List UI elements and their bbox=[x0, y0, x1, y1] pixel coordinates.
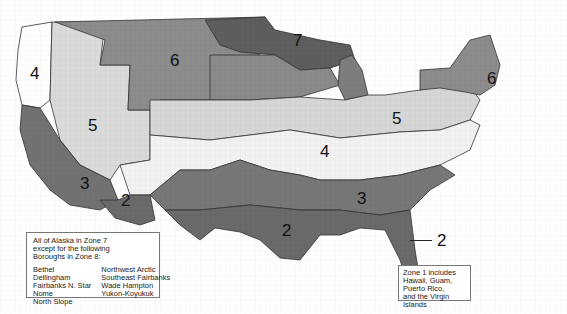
alaska-note-line3: Boroughs in Zone 8: bbox=[33, 253, 153, 261]
zone-label-3-california: 3 bbox=[80, 175, 89, 192]
zone-label-2-florida: 2 bbox=[437, 232, 446, 249]
zone-label-5-west: 5 bbox=[88, 117, 97, 134]
zone1-note-box: Zone 1 includes Hawaii, Guam, Puerto Ric… bbox=[398, 265, 471, 301]
zone-label-2-texas: 2 bbox=[282, 222, 291, 239]
zone-label-7-north: 7 bbox=[293, 32, 302, 49]
zone-label-5-midwest: 5 bbox=[392, 110, 401, 127]
zone-label-6-mountain: 6 bbox=[170, 52, 179, 69]
zone-label-4-central: 4 bbox=[320, 143, 329, 160]
boroughs-right-column: Northwest Arctic Southeast Fairbanks Wad… bbox=[101, 266, 170, 306]
zone-label-2-arizona: 2 bbox=[121, 192, 130, 209]
boroughs-left-column: Bethel Dellingham Fairbanks N. Star Nome… bbox=[33, 266, 91, 306]
zone1-note-line4: and the Virgin Islands bbox=[403, 293, 466, 309]
zone-label-3-southeast: 3 bbox=[357, 190, 366, 207]
borough-item: Yukon-Koyukuk bbox=[101, 290, 170, 298]
zone-label-6-northeast: 6 bbox=[487, 70, 496, 87]
alaska-note-box: All of Alaska in Zone 7 except for the f… bbox=[26, 232, 160, 298]
zone-2-leader-line bbox=[410, 240, 432, 241]
borough-item: North Slope bbox=[33, 298, 91, 306]
zone-label-4-northwest: 4 bbox=[30, 65, 39, 82]
